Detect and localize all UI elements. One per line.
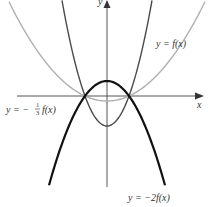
label-neg-2f: y = −2f(x): [127, 192, 170, 204]
y-axis-arrow-icon: [104, 0, 111, 8]
label-f: y = f(x): [155, 38, 187, 50]
label-frac-den: 3: [36, 109, 39, 116]
graph-canvas: x y y = f(x) y = − 1 3 f(x) y = −2f(x): [0, 0, 208, 207]
label-frac-num: 1: [36, 101, 39, 108]
label-neg-one-third-f-func: f(x): [42, 104, 57, 116]
label-neg-one-third-f: y = −: [5, 104, 29, 115]
x-axis-label: x: [196, 99, 202, 110]
x-axis: [17, 93, 204, 100]
y-axis: [104, 0, 111, 187]
y-axis-label: y: [97, 0, 103, 7]
